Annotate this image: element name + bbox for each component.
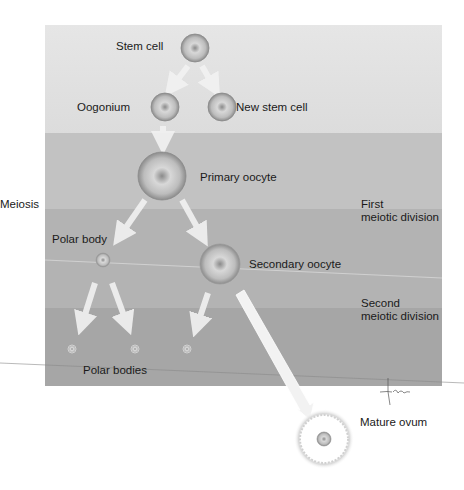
label-primary-oocyte: Primary oocyte	[200, 171, 277, 184]
arrow-primary-to-polar	[120, 200, 145, 236]
label-polar-bodies: Polar bodies	[83, 364, 147, 377]
polar-body-2-icon	[131, 345, 139, 353]
primary-oocyte-icon	[138, 152, 186, 200]
label-new-stem-cell: New stem cell	[236, 101, 308, 114]
label-second-line1: Second	[361, 297, 400, 310]
label-meiosis: Meiosis	[0, 198, 39, 211]
scan-line	[0, 363, 464, 383]
label-oogonium: Oogonium	[77, 101, 130, 114]
polar-body-1-icon	[68, 345, 76, 353]
mature-ovum-icon	[294, 409, 354, 469]
secondary-oocyte-icon	[200, 244, 240, 284]
oogonium-icon	[151, 93, 179, 121]
arrow-stem-to-oogonium	[172, 66, 188, 87]
label-stem-cell: Stem cell	[116, 40, 163, 53]
arrow-primary-to-secondary	[182, 200, 202, 236]
new-stem-cell-icon	[208, 93, 236, 121]
label-secondary-oocyte: Secondary oocyte	[249, 258, 341, 271]
polar-body-icon	[96, 253, 110, 267]
label-first-line1: First	[361, 198, 383, 211]
arrow-secondary-to-pb3	[197, 293, 208, 326]
label-first-line2: meiotic division	[361, 211, 439, 224]
stem-cell-icon	[181, 34, 209, 62]
arrow-stem-to-new-stem	[202, 66, 214, 87]
arrow-secondary-to-ovum	[236, 290, 314, 420]
arrow-polar-to-pb2	[112, 283, 127, 324]
handwriting-mark	[380, 378, 410, 405]
arrow-polar-to-pb1	[82, 283, 95, 324]
label-second-line2: meiotic division	[361, 310, 439, 323]
label-mature-ovum: Mature ovum	[360, 416, 427, 429]
polar-body-3-icon	[183, 345, 191, 353]
label-polar-body: Polar body	[52, 233, 107, 246]
